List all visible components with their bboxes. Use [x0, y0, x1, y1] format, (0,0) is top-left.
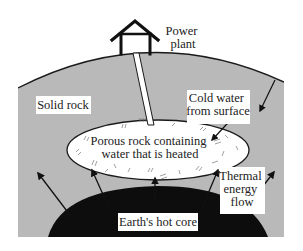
label-cold-water-line1: Cold water	[189, 91, 245, 105]
label-power-plant-line2: plant	[171, 37, 197, 51]
label-porous-line2: water that is heated	[102, 147, 200, 161]
label-thermal-line3: flow	[231, 195, 254, 209]
label-power-plant-line1: Power	[165, 24, 198, 38]
label-thermal-line1: Thermal	[219, 169, 262, 183]
label-thermal-line2: energy	[224, 182, 259, 196]
label-porous-rock: Porous rock containing water that is hea…	[90, 134, 209, 161]
power-plant-icon	[112, 21, 158, 54]
label-solid-rock: Solid rock	[37, 98, 89, 112]
label-cold-water-line2: from surface	[186, 104, 250, 118]
label-porous-line1: Porous rock containing	[90, 134, 207, 148]
label-power-plant: Power plant	[165, 24, 200, 51]
label-cold-water: Cold water from surface	[186, 91, 250, 118]
geothermal-diagram: Power plant Solid rock Cold water from s…	[0, 0, 303, 251]
label-core: Earth's hot core	[119, 215, 197, 229]
